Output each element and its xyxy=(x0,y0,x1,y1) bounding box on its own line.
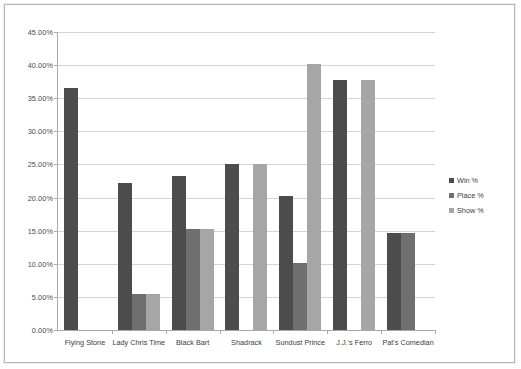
x-axis-tick-mark xyxy=(112,330,113,334)
bar-win[interactable] xyxy=(387,233,401,330)
y-axis-tick-label: 35.00% xyxy=(28,94,53,103)
legend-label: Place % xyxy=(457,191,484,200)
bar-win[interactable] xyxy=(333,80,347,330)
legend-swatch-win xyxy=(449,178,454,183)
bar-place[interactable] xyxy=(293,263,307,330)
chart-frame: 0.00%5.00%10.00%15.00%20.00%25.00%30.00%… xyxy=(4,4,515,363)
bar-group xyxy=(166,32,220,330)
bar-win[interactable] xyxy=(279,196,293,330)
y-axis-tick-label: 5.00% xyxy=(32,292,53,301)
y-axis-tick-label: 40.00% xyxy=(28,61,53,70)
bar-place[interactable] xyxy=(186,229,200,330)
x-axis-category-label: J.J.'s Ferro xyxy=(336,338,372,347)
y-axis-tick-label: 10.00% xyxy=(28,259,53,268)
x-axis-category-label: Sundust Prince xyxy=(276,338,326,347)
bar-win[interactable] xyxy=(64,88,78,330)
bar-show[interactable] xyxy=(146,294,160,330)
bar-win[interactable] xyxy=(172,176,186,330)
bar-group xyxy=(273,32,327,330)
bar-show[interactable] xyxy=(361,80,375,330)
bar-series-layer xyxy=(58,32,435,330)
chart-legend: Win %Place %Show % xyxy=(449,173,484,218)
bar-group xyxy=(381,32,435,330)
bar-place[interactable] xyxy=(132,294,146,330)
legend-label: Win % xyxy=(457,176,478,185)
bar-group xyxy=(58,32,112,330)
x-axis-tick-mark xyxy=(220,330,221,334)
x-axis-tick-mark xyxy=(435,330,436,334)
y-axis-tick-label: 25.00% xyxy=(28,160,53,169)
legend-swatch-show xyxy=(449,208,454,213)
legend-item[interactable]: Place % xyxy=(449,188,484,203)
x-axis-tick-mark xyxy=(327,330,328,334)
legend-item[interactable]: Win % xyxy=(449,173,484,188)
x-axis-category-label: Pat's Comedian xyxy=(382,338,433,347)
y-axis-tick-label: 15.00% xyxy=(28,226,53,235)
x-axis-category-label: Lady Chris Time xyxy=(112,338,165,347)
y-axis-tick-mark xyxy=(54,330,58,331)
bar-group xyxy=(327,32,381,330)
x-axis-category-label: Flying Stone xyxy=(65,338,106,347)
legend-swatch-place xyxy=(449,193,454,198)
bar-group xyxy=(220,32,274,330)
bar-show[interactable] xyxy=(200,229,214,330)
x-axis-tick-mark xyxy=(381,330,382,334)
bar-show[interactable] xyxy=(253,164,267,330)
x-axis-category-label: Shadrack xyxy=(231,338,262,347)
y-axis-tick-label: 30.00% xyxy=(28,127,53,136)
legend-label: Show % xyxy=(457,206,484,215)
gridline xyxy=(58,330,435,331)
plot-area: 0.00%5.00%10.00%15.00%20.00%25.00%30.00%… xyxy=(57,32,435,331)
y-axis-tick-label: 0.00% xyxy=(32,326,53,335)
legend-item[interactable]: Show % xyxy=(449,203,484,218)
x-axis-category-label: Black Bart xyxy=(176,338,209,347)
x-axis-tick-mark xyxy=(273,330,274,334)
bar-win[interactable] xyxy=(225,164,239,330)
bar-place[interactable] xyxy=(401,233,415,330)
bar-group xyxy=(112,32,166,330)
y-axis-tick-label: 45.00% xyxy=(28,28,53,37)
y-axis-tick-label: 20.00% xyxy=(28,193,53,202)
bar-show[interactable] xyxy=(307,64,321,330)
x-axis-tick-mark xyxy=(166,330,167,334)
bar-win[interactable] xyxy=(118,183,132,330)
